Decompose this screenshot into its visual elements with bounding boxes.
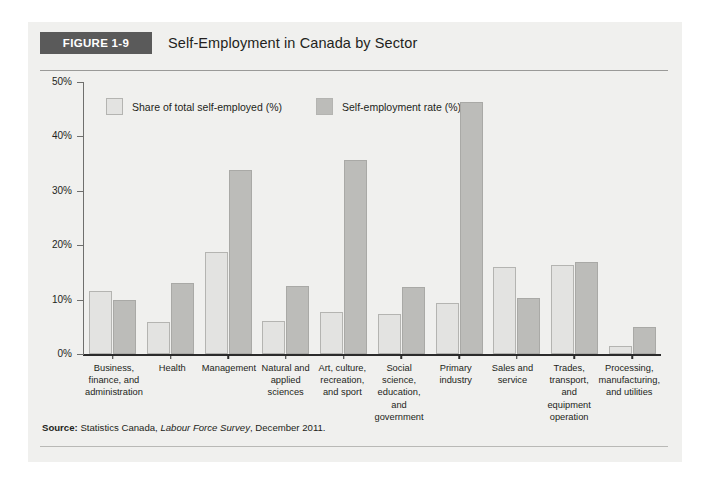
figure-header: FIGURE 1-9 Self-Employment in Canada by … xyxy=(28,32,682,62)
page: FIGURE 1-9 Self-Employment in Canada by … xyxy=(0,0,709,486)
category-label: Processing, manufacturing, and utilities xyxy=(598,362,662,423)
bar xyxy=(113,300,136,354)
bar xyxy=(493,267,516,354)
y-tick-label-10: 10% xyxy=(40,294,72,305)
source-survey-name: Labour Force Survey xyxy=(160,422,250,433)
x-tick xyxy=(170,354,172,359)
bar xyxy=(633,327,656,354)
y-tick-40 xyxy=(77,136,84,137)
bar xyxy=(436,303,459,354)
category-labels: Business, finance, and administrationHea… xyxy=(84,362,661,423)
bar-group xyxy=(257,82,315,354)
x-tick xyxy=(401,354,403,359)
bar xyxy=(575,262,598,354)
category-label: Primary industry xyxy=(427,362,484,423)
bar-group xyxy=(373,82,431,354)
bar-group xyxy=(315,82,373,354)
bar-group xyxy=(430,82,488,354)
category-label: Trades, transport, and equipment operati… xyxy=(541,362,598,423)
category-label: Management xyxy=(201,362,258,423)
bar-group xyxy=(142,82,200,354)
bar xyxy=(378,314,401,354)
category-label: Natural and applied sciences xyxy=(257,362,314,423)
bar xyxy=(460,102,483,354)
bar-group xyxy=(603,82,661,354)
x-tick xyxy=(516,354,518,359)
bar xyxy=(229,170,252,354)
bar xyxy=(402,287,425,354)
bar-groups xyxy=(84,82,661,354)
bar-group xyxy=(84,82,142,354)
header-divider xyxy=(40,70,668,71)
source-label: Source: xyxy=(42,422,78,433)
source-text-part2: , December 2011. xyxy=(250,422,326,433)
source-divider xyxy=(40,446,668,447)
category-label: Sales and service xyxy=(484,362,541,423)
bar xyxy=(609,346,632,354)
x-tick xyxy=(285,354,287,359)
bar xyxy=(344,160,367,354)
bar xyxy=(147,322,170,354)
y-tick-0 xyxy=(77,354,84,355)
y-tick-label-0: 0% xyxy=(40,348,72,359)
category-label: Social science, education, and governmen… xyxy=(371,362,428,423)
category-label: Business, finance, and administration xyxy=(84,362,144,423)
bar-group xyxy=(488,82,546,354)
x-tick xyxy=(228,354,230,359)
bar xyxy=(262,321,285,354)
x-tick xyxy=(458,354,460,359)
figure-number-badge: FIGURE 1-9 xyxy=(40,32,152,54)
bar-group xyxy=(546,82,604,354)
figure-title: Self-Employment in Canada by Sector xyxy=(168,32,417,54)
bar xyxy=(517,298,540,354)
y-tick-20 xyxy=(77,245,84,246)
category-label: Health xyxy=(144,362,201,423)
bar xyxy=(320,312,343,354)
source-note: Source: Statistics Canada, Labour Force … xyxy=(42,422,326,433)
y-tick-label-50: 50% xyxy=(40,76,72,87)
source-text-part1: Statistics Canada, xyxy=(78,422,161,433)
y-tick-50 xyxy=(77,82,84,83)
y-tick-label-20: 20% xyxy=(40,239,72,250)
plot-area: 0%10%20%30%40%50% xyxy=(40,74,668,374)
figure-panel: FIGURE 1-9 Self-Employment in Canada by … xyxy=(28,22,682,462)
x-tick xyxy=(343,354,345,359)
bar-group xyxy=(199,82,257,354)
bar xyxy=(171,283,194,354)
x-tick xyxy=(631,354,633,359)
bar xyxy=(205,252,228,354)
y-tick-30 xyxy=(77,191,84,192)
x-tick xyxy=(574,354,576,359)
bar xyxy=(286,286,309,354)
y-tick-label-40: 40% xyxy=(40,130,72,141)
category-label: Art, culture, recreation, and sport xyxy=(314,362,371,423)
bar xyxy=(89,291,112,354)
y-tick-10 xyxy=(77,300,84,301)
y-tick-label-30: 30% xyxy=(40,185,72,196)
x-tick xyxy=(112,354,114,359)
bar xyxy=(551,265,574,354)
